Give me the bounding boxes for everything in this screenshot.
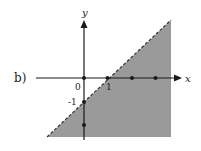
x-dot-1 (106, 76, 110, 80)
x-tick-label-1: 1 (106, 82, 112, 92)
y-axis-arrow-icon (81, 20, 88, 28)
origin-dot (82, 76, 86, 80)
inequality-graph: b) x y 0 1 -1 (0, 0, 201, 151)
y-dot-minus-2 (82, 123, 86, 127)
y-dot-minus-1 (82, 100, 86, 104)
origin-label: 0 (75, 82, 81, 92)
x-dot-3 (154, 76, 158, 80)
x-axis-label: x (185, 73, 191, 84)
y-axis-label: y (81, 7, 88, 18)
y-tick-label-minus-1: -1 (68, 97, 77, 107)
part-label: b) (14, 71, 26, 85)
x-axis-arrow-icon (174, 75, 182, 82)
x-dot-2 (130, 76, 134, 80)
